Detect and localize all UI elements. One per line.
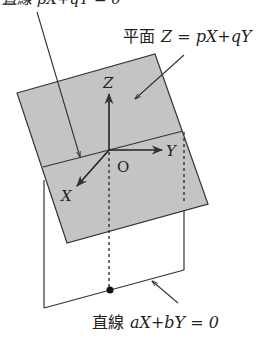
line-ax-by	[44, 270, 184, 308]
line-label: 直線aX+bY = 0	[92, 313, 219, 332]
diagram-canvas: 直線 pX+qY = 0 Z Y X O 平面Z = pX+qY 直線aX+bY…	[0, 0, 280, 344]
origin-label: O	[117, 158, 129, 176]
x-axis-label: X	[60, 187, 73, 205]
intersection-point	[107, 287, 114, 294]
top-line-label: 直線 pX+qY = 0	[2, 0, 121, 8]
plane-label: 平面Z = pX+qY	[123, 27, 253, 46]
z-axis-label: Z	[102, 74, 114, 92]
pointer-arrow-line	[152, 281, 178, 303]
